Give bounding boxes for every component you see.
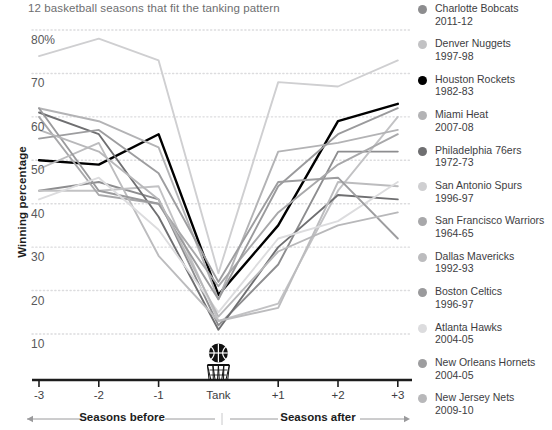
legend-color-dot-icon — [418, 253, 427, 262]
legend-item[interactable]: San Antonio Spurs1996-97 — [418, 179, 522, 204]
legend-item[interactable]: New Orleans Hornets2004-05 — [418, 356, 535, 381]
legend-item[interactable]: San Francisco Warriors1964-65 — [418, 214, 544, 239]
legend-item[interactable]: Boston Celtics1996-97 — [418, 285, 502, 310]
y-tick-label-80: 80% — [31, 33, 55, 47]
legend-season-label: 2009-10 — [435, 404, 514, 417]
legend-season-label: 2011-12 — [435, 15, 518, 28]
x-tick-label--2: -2 — [94, 389, 104, 401]
series-line-new-jersey-nets[interactable] — [39, 130, 398, 317]
y-tick-label-60: 60 — [31, 120, 44, 134]
legend-team-name: Miami Heat — [435, 108, 488, 121]
legend-team-name: San Francisco Warriors — [435, 214, 544, 227]
y-tick-label-50: 50 — [31, 163, 44, 177]
y-tick-label-20: 20 — [31, 294, 44, 308]
y-tick-label-10: 10 — [31, 337, 44, 351]
legend-team-name: New Orleans Hornets — [435, 356, 535, 369]
legend-item[interactable]: Philadelphia 76ers1972-73 — [418, 144, 521, 169]
legend-season-label: 2004-05 — [435, 369, 535, 382]
legend-item[interactable]: New Jersey Nets2009-10 — [418, 391, 514, 416]
legend-item[interactable]: Charlotte Bobcats2011-12 — [418, 2, 518, 27]
legend-color-dot-icon — [418, 217, 427, 226]
range-label-right: Seasons after — [280, 411, 355, 423]
legend-team-name: Boston Celtics — [435, 285, 502, 298]
legend-season-label: 1997-98 — [435, 50, 511, 63]
series-line-new-orleans-hornets[interactable] — [39, 130, 398, 282]
legend-color-dot-icon — [418, 5, 427, 14]
legend-item[interactable]: Miami Heat2007-08 — [418, 108, 488, 133]
legend-item[interactable]: Denver Nuggets1997-98 — [418, 37, 511, 62]
legend-team-name: San Antonio Spurs — [435, 179, 522, 192]
legend-season-label: 2004-05 — [435, 333, 502, 346]
legend-season-label: 1964-65 — [435, 227, 544, 240]
legend-color-dot-icon — [418, 147, 427, 156]
legend-season-label: 1996-97 — [435, 298, 502, 311]
legend-season-label: 1972-73 — [435, 156, 521, 169]
legend-team-name: Denver Nuggets — [435, 37, 511, 50]
legend-team-name: Philadelphia 76ers — [435, 144, 521, 157]
range-label-left: Seasons before — [79, 411, 165, 423]
legend-season-label: 2007-08 — [435, 121, 488, 134]
legend-color-dot-icon — [418, 324, 427, 333]
legend-color-dot-icon — [418, 76, 427, 85]
legend-color-dot-icon — [418, 111, 427, 120]
line-chart-svg — [0, 0, 415, 430]
legend-team-name: Atlanta Hawks — [435, 321, 502, 334]
legend-season-label: 1982-83 — [435, 85, 515, 98]
legend-color-dot-icon — [418, 359, 427, 368]
y-tick-label-30: 30 — [31, 250, 44, 264]
arrow-left-icon — [27, 416, 33, 422]
x-tick-label-+1: +1 — [272, 389, 285, 401]
legend-color-dot-icon — [418, 288, 427, 297]
legend-color-dot-icon — [418, 182, 427, 191]
x-tick-label-+3: +3 — [391, 389, 404, 401]
legend-season-label: 1996-97 — [435, 192, 522, 205]
legend-team-name: Houston Rockets — [435, 73, 515, 86]
basketball-hoop-icon — [207, 344, 229, 381]
legend-color-dot-icon — [418, 40, 427, 49]
legend-team-name: Charlotte Bobcats — [435, 2, 518, 15]
legend-season-label: 1992-93 — [435, 262, 514, 275]
legend-item[interactable]: Houston Rockets1982-83 — [418, 73, 515, 98]
x-tick-label--3: -3 — [34, 389, 44, 401]
legend-item[interactable]: Dallas Mavericks1992-93 — [418, 250, 514, 275]
arrow-right-icon — [404, 416, 410, 422]
chart-legend: Charlotte Bobcats2011-12Denver Nuggets19… — [418, 0, 552, 430]
x-tick-label-tank: Tank — [206, 389, 230, 401]
legend-team-name: New Jersey Nets — [435, 391, 514, 404]
chart-plot-area: Winning percentage 1020304050607080%-3-2… — [0, 0, 415, 430]
x-tick-label-+2: +2 — [331, 389, 344, 401]
y-tick-label-70: 70 — [31, 76, 44, 90]
y-tick-label-40: 40 — [31, 207, 44, 221]
legend-color-dot-icon — [418, 394, 427, 403]
legend-item[interactable]: Atlanta Hawks2004-05 — [418, 321, 502, 346]
x-tick-label--1: -1 — [153, 389, 163, 401]
legend-team-name: Dallas Mavericks — [435, 250, 514, 263]
